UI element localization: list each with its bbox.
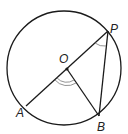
circle-diagram: O P A B xyxy=(0,0,128,134)
label-b: B xyxy=(97,120,105,134)
label-a: A xyxy=(15,106,24,120)
chord-pb xyxy=(99,31,108,116)
label-p: P xyxy=(110,22,118,36)
label-o: O xyxy=(59,52,68,66)
center-point xyxy=(65,67,68,70)
angle-mark-p xyxy=(95,43,106,46)
angle-mark-o-inner xyxy=(57,78,74,82)
radius-ob xyxy=(67,69,99,116)
